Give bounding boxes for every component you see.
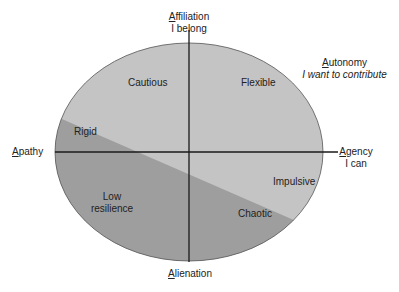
region-cautious: Cautious [128, 77, 167, 89]
axis-affiliation: Affiliation I belong [159, 11, 219, 35]
axis-alienation: Alienation [160, 268, 220, 280]
axis-apathy: Apathy [12, 146, 43, 158]
region-rigid: Rigid [74, 126, 97, 138]
axis-agency: Agency I can [336, 146, 376, 170]
axis-autonomy: Autonomy I want to contribute [290, 57, 399, 81]
region-chaotic: Chaotic [238, 208, 272, 220]
region-impulsive: Impulsive [273, 176, 315, 188]
region-low-resilience: Low resilience [82, 191, 142, 215]
region-flexible: Flexible [241, 77, 275, 89]
